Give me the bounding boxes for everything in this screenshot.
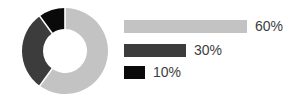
legend-item-label: 60% [255,19,283,33]
donut-chart-figure: 60% 30% 10% [0,0,308,105]
legend-item: 60% [124,17,283,35]
donut-chart [21,7,109,95]
legend-item-label: 10% [153,65,181,79]
legend-swatch-bar [124,20,247,33]
legend-item: 30% [124,41,222,59]
legend-item: 10% [124,63,181,81]
legend-item-label: 30% [194,43,222,57]
legend-swatch-bar [124,66,145,79]
donut-slice-group [22,7,108,94]
donut-chart-svg [21,7,109,95]
chart-legend: 60% 30% 10% [124,14,308,92]
legend-swatch-bar [124,44,186,57]
